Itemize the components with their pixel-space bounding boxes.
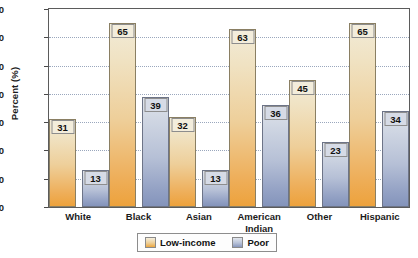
bar (229, 29, 256, 207)
plot-area: 311365393213633645236534 (48, 8, 410, 208)
bar-group: 6534 (349, 9, 409, 207)
y-tick-label-60: 60 (0, 32, 4, 43)
y-tick-mark-0 (44, 207, 48, 208)
bar-group: 3213 (169, 9, 229, 207)
x-axis-label: Other (289, 210, 349, 238)
bar (262, 105, 289, 207)
legend-label-low-income: Low-income (160, 237, 215, 248)
bar-groups: 311365393213633645236534 (49, 9, 409, 207)
y-axis-title: Percent (%) (9, 54, 20, 134)
y-tick-label-20: 20 (0, 145, 4, 156)
y-tick-mark-20 (44, 150, 48, 151)
bar-value-label: 65 (351, 24, 374, 38)
legend-label-poor: Poor (247, 237, 269, 248)
y-tick-label-40: 40 (0, 88, 4, 99)
bar (289, 80, 316, 207)
y-tick-label-30: 30 (0, 117, 4, 128)
legend-item-poor: Poor (232, 237, 269, 248)
bar-value-label: 32 (171, 118, 194, 132)
bar-group: 3113 (49, 9, 109, 207)
bar-value-label: 23 (324, 143, 347, 157)
y-tick-label-10: 10 (0, 173, 4, 184)
bar (142, 97, 169, 207)
bar-group: 6539 (109, 9, 169, 207)
y-tick-mark-30 (44, 122, 48, 123)
y-tick-mark-40 (44, 94, 48, 95)
legend-swatch-low-income (145, 237, 156, 248)
bar-value-label: 45 (291, 81, 314, 95)
bar-value-label: 65 (111, 24, 134, 38)
bar-value-label: 31 (51, 120, 74, 134)
bar-group: 6336 (229, 9, 289, 207)
bar-value-label: 34 (384, 112, 407, 126)
bar-value-label: 39 (144, 98, 167, 112)
bar-value-label: 13 (204, 171, 227, 185)
legend: Low-income Poor (137, 233, 277, 252)
bar-value-label: 13 (84, 171, 107, 185)
y-tick-mark-50 (44, 66, 48, 67)
legend-item-low-income: Low-income (145, 237, 215, 248)
y-tick-label-70: 70 (0, 4, 4, 15)
plot-inner: 311365393213633645236534 (49, 9, 409, 207)
x-axis-label: White (48, 210, 108, 238)
bar-group: 4523 (289, 9, 349, 207)
legend-swatch-poor (232, 237, 243, 248)
bar (349, 23, 376, 207)
x-axis-label: Hispanic (350, 210, 410, 238)
y-tick-mark-60 (44, 37, 48, 38)
bar (109, 23, 136, 207)
bar-value-label: 36 (264, 106, 287, 120)
bar-value-label: 63 (231, 30, 254, 44)
y-tick-label-0: 0 (0, 202, 4, 213)
y-tick-mark-10 (44, 179, 48, 180)
bar-chart: Percent (%) 311365393213633645236534 010… (0, 0, 418, 258)
y-tick-mark-70 (44, 9, 48, 10)
y-tick-label-50: 50 (0, 60, 4, 71)
